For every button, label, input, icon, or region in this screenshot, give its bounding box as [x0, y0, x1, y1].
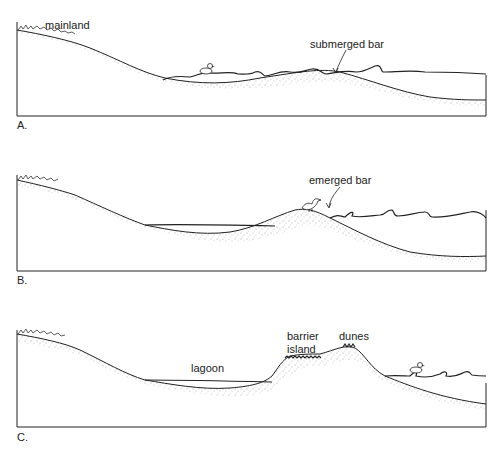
- panel-letter-c: C.: [17, 431, 28, 443]
- label-dunes: dunes: [339, 330, 369, 342]
- panel-a-submerged-bar: mainland submerged bar A.: [0, 0, 500, 150]
- panel-letter-b: B.: [17, 274, 27, 286]
- label-barrier-island-line2: island: [287, 343, 316, 355]
- panel-letter-a: A.: [17, 119, 27, 131]
- seafloor-profile: [17, 180, 486, 257]
- label-lagoon: lagoon: [191, 362, 224, 374]
- duck-icon: [410, 363, 425, 374]
- vegetation: [18, 175, 58, 181]
- panel-b-emerged-bar: emerged bar B.: [0, 160, 500, 310]
- label-mainland: mainland: [45, 19, 90, 31]
- label-emerged-bar: emerged bar: [309, 174, 371, 186]
- label-barrier-island-line1: barrier: [287, 330, 319, 342]
- water-surface-waves: [385, 371, 486, 376]
- seafloor-profile: [17, 30, 486, 100]
- duck-icon: [200, 64, 215, 75]
- panel-c-barrier-island: lagoon barrier island dunes C.: [0, 310, 500, 450]
- label-submerged-bar: submerged bar: [310, 38, 384, 50]
- sand-layer: [17, 180, 486, 262]
- sand-layer: [17, 30, 486, 106]
- water-surface-waves: [330, 210, 486, 218]
- panel-b-cross-section: [0, 160, 500, 310]
- panel-c-cross-section: [0, 310, 500, 450]
- lagoon-surface: [145, 380, 272, 382]
